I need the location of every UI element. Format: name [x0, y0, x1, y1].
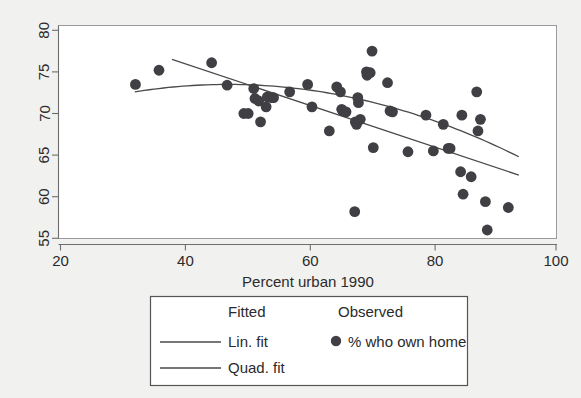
scatter-point — [421, 110, 432, 121]
x-tick-label-80: 80 — [427, 252, 444, 269]
legend-label-quad-fit: Quad. fit — [228, 359, 286, 376]
scatter-point — [349, 206, 360, 217]
legend-header-observed: Observed — [338, 303, 403, 320]
scatter-point — [341, 106, 352, 117]
chart-legend: Fitted Observed Lin. fit % who own home … — [151, 297, 468, 386]
legend-header-fitted: Fitted — [228, 303, 266, 320]
scatter-point — [471, 86, 482, 97]
scatter-point — [458, 189, 469, 200]
x-axis-title: Percent urban 1990 — [242, 273, 374, 290]
scatter-point — [466, 171, 477, 182]
scatter-point — [324, 126, 335, 137]
scatter-point — [475, 114, 486, 125]
scatter-plot-figure: 80 75 70 65 60 55 20 40 60 80 100 Percen… — [0, 0, 581, 398]
chart-svg: 80 75 70 65 60 55 20 40 60 80 100 Percen… — [0, 0, 581, 398]
legend-label-observed: % who own home — [348, 333, 466, 350]
scatter-point — [482, 225, 493, 236]
scatter-point — [382, 77, 393, 88]
scatter-point — [302, 79, 313, 90]
scatter-point — [248, 83, 259, 94]
y-tick-label-75: 75 — [36, 64, 53, 81]
x-tick-label-60: 60 — [302, 252, 319, 269]
scatter-point — [473, 126, 484, 137]
scatter-point — [456, 110, 467, 121]
scatter-point — [387, 106, 398, 117]
scatter-point — [445, 143, 456, 154]
scatter-point — [255, 116, 266, 127]
scatter-point — [438, 119, 449, 130]
scatter-point — [307, 101, 318, 112]
scatter-point — [130, 79, 141, 90]
scatter-point — [243, 108, 254, 119]
legend-swatch-observed-marker — [331, 336, 341, 346]
scatter-point — [261, 101, 272, 112]
scatter-point — [284, 86, 295, 97]
scatter-point — [503, 202, 514, 213]
x-tick-label-20: 20 — [52, 252, 69, 269]
scatter-point — [367, 46, 378, 57]
scatter-point — [335, 86, 346, 97]
y-tick-label-60: 60 — [36, 188, 53, 205]
y-tick-label-80: 80 — [36, 22, 53, 39]
scatter-point — [365, 67, 376, 78]
scatter-point — [355, 114, 366, 125]
scatter-point — [154, 65, 165, 76]
x-tick-label-40: 40 — [177, 252, 194, 269]
scatter-point — [428, 146, 439, 157]
scatter-point — [353, 97, 364, 108]
scatter-point — [480, 196, 491, 207]
scatter-point — [268, 92, 279, 103]
legend-label-lin-fit: Lin. fit — [228, 333, 269, 350]
y-tick-label-55: 55 — [36, 230, 53, 247]
x-tick-label-100: 100 — [543, 252, 568, 269]
scatter-point — [455, 166, 466, 177]
scatter-point — [403, 146, 414, 157]
scatter-point — [206, 57, 217, 68]
scatter-point — [222, 80, 233, 91]
y-tick-label-65: 65 — [36, 147, 53, 164]
y-tick-label-70: 70 — [36, 105, 53, 122]
scatter-point — [368, 142, 379, 153]
